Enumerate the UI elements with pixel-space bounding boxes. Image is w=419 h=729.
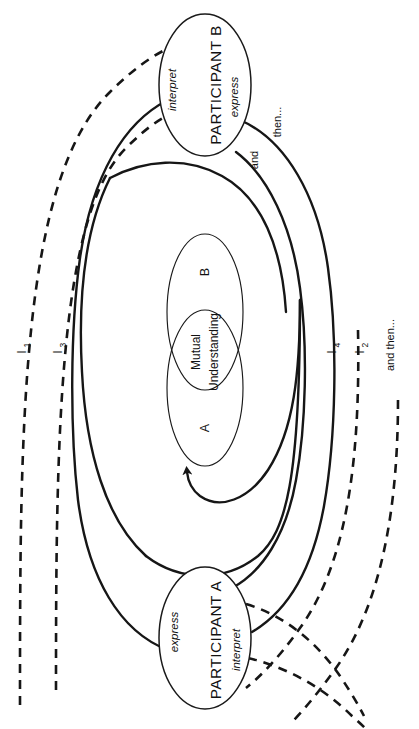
iteration-label-i2: I 2 — [353, 342, 370, 353]
spiral-diagram-svg: PARTICIPANT B interpret express PARTICIP… — [0, 0, 419, 729]
iteration-label-i3-sub: 3 — [58, 342, 68, 347]
participant-b-express-label: express — [228, 77, 240, 118]
iteration-label-i4-base: I — [325, 350, 339, 353]
arc-i4-solid-right — [240, 120, 334, 632]
arc-a-interpret-dashed-outer — [248, 658, 366, 729]
flow-label-then: then... — [271, 107, 283, 138]
flow-label-and: and — [248, 151, 260, 169]
diagram-canvas: PARTICIPANT B interpret express PARTICIP… — [0, 0, 419, 729]
arc-then-solid — [232, 152, 305, 588]
arc-a-interpret-dashed-inner — [246, 604, 364, 716]
participant-b-label: PARTICIPANT B — [207, 25, 224, 144]
iteration-label-i4: I 4 — [325, 342, 342, 353]
iteration-label-i2-sub: 2 — [360, 342, 370, 347]
venn-ellipse-b — [167, 234, 243, 390]
participant-b-interpret-label: interpret — [166, 68, 178, 111]
participant-a-interpret-label: interpret — [230, 628, 242, 671]
venn-ellipse-a — [167, 310, 243, 466]
iteration-label-i1-base: I — [15, 350, 29, 353]
venn-label-b: B — [198, 268, 212, 276]
spiral-outer-loop-left — [81, 178, 146, 556]
participant-a-label: PARTICIPANT A — [207, 580, 224, 699]
flow-label-and-then: and then... — [384, 319, 396, 371]
mutual-understanding-line1: Mutual — [189, 334, 203, 370]
arc-i1-dashed — [20, 44, 180, 705]
iteration-label-i1-sub: 1 — [22, 342, 32, 347]
participant-a-express-label: express — [168, 612, 180, 653]
iteration-label-i4-sub: 4 — [332, 342, 342, 347]
venn-label-a: A — [198, 423, 212, 432]
mutual-understanding-line2: Understanding — [207, 313, 221, 391]
iteration-label-i3-base: I — [51, 350, 65, 353]
iteration-label-i2-base: I — [353, 350, 367, 353]
spiral-inner-arc-arrow — [187, 300, 300, 502]
spiral-outer-loop — [110, 163, 286, 312]
arc-outer-solid-left — [72, 100, 168, 650]
arc-i3-dashed — [56, 112, 176, 690]
